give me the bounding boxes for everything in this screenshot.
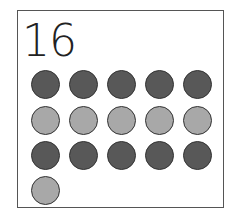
light-dot [145, 106, 174, 135]
light-dot [69, 106, 98, 135]
dark-dot [183, 70, 212, 99]
light-dot [31, 106, 60, 135]
dark-dot [69, 141, 98, 170]
dark-dot [183, 141, 212, 170]
dark-dot [69, 70, 98, 99]
number-label: 16 [22, 17, 76, 65]
dark-dot [107, 70, 136, 99]
number-card: 16 [17, 10, 224, 208]
light-dot [31, 176, 60, 205]
dark-dot [31, 141, 60, 170]
dark-dot [31, 70, 60, 99]
dark-dot [107, 141, 136, 170]
dark-dot [145, 141, 174, 170]
light-dot [107, 106, 136, 135]
dark-dot [145, 70, 174, 99]
light-dot [183, 106, 212, 135]
